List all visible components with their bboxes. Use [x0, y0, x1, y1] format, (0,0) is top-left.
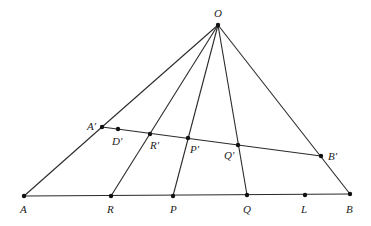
segment-O-A1	[102, 25, 218, 127]
point-D1	[116, 127, 120, 131]
point-P	[171, 194, 175, 198]
label-P1: P′	[189, 143, 200, 155]
point-O	[216, 23, 220, 27]
label-A: A	[19, 203, 27, 215]
label-R: R	[106, 203, 114, 215]
segment-O-B	[218, 25, 350, 194]
label-A1: A′	[86, 120, 97, 132]
point-P1	[186, 136, 190, 140]
segment-A1-B1	[102, 127, 321, 156]
diagram-canvas: OA′D′R′P′Q′B′ARPQLB	[0, 0, 371, 226]
label-P: P	[169, 203, 177, 215]
point-L	[303, 193, 307, 197]
point-B	[348, 192, 352, 196]
segment-O-P	[173, 25, 218, 196]
label-R1: R′	[149, 139, 160, 151]
segment-O-Q	[218, 25, 247, 195]
point-R	[109, 194, 113, 198]
point-A	[22, 194, 26, 198]
label-B: B	[346, 203, 353, 215]
point-A1	[100, 125, 104, 129]
label-Q: Q	[243, 203, 251, 215]
segment-O-R	[111, 25, 218, 196]
line-segments	[24, 25, 350, 196]
point-R1	[148, 132, 152, 136]
label-B1: B′	[328, 150, 338, 162]
segment-A1-A	[24, 127, 102, 196]
point-labels: OA′D′R′P′Q′B′ARPQLB	[19, 7, 353, 215]
label-D1: D′	[111, 135, 123, 147]
label-L: L	[300, 203, 307, 215]
points	[22, 23, 352, 198]
point-B1	[319, 154, 323, 158]
label-Q1: Q′	[224, 149, 235, 161]
projective-geometry-diagram: OA′D′R′P′Q′B′ARPQLB	[0, 0, 371, 226]
point-Q1	[236, 143, 240, 147]
segment-A-B	[24, 194, 350, 196]
point-Q	[245, 193, 249, 197]
label-O: O	[214, 7, 222, 19]
